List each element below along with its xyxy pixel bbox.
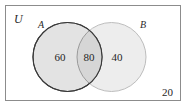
- outside-count: 20: [162, 86, 174, 98]
- intersection-count: 80: [84, 51, 96, 63]
- set-b-only-count: 40: [112, 51, 124, 63]
- venn-diagram-figure: U A B 60 80 40 20: [0, 0, 186, 107]
- set-a-label: A: [37, 19, 45, 30]
- venn-diagram-canvas: U A B 60 80 40 20: [0, 0, 186, 107]
- set-b-label: B: [140, 19, 146, 30]
- universal-set-label: U: [14, 12, 24, 26]
- set-a-only-count: 60: [55, 51, 67, 63]
